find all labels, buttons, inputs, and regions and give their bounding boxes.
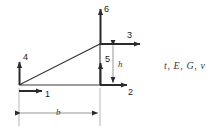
dof-label-4: 4 <box>23 53 28 62</box>
dof-label-6: 6 <box>104 5 109 14</box>
dimension-label-b: b <box>56 108 61 117</box>
material-properties-label: t, E, G, ν <box>164 61 206 71</box>
figure-canvas: 1 2 3 4 5 6 b h t, E, G, ν <box>0 0 220 133</box>
dof-label-5: 5 <box>105 55 110 64</box>
dof-label-1: 1 <box>45 90 50 99</box>
triangle-element-outline <box>19 44 100 85</box>
dof-label-2: 2 <box>128 88 133 97</box>
dimension-label-h: h <box>118 60 123 69</box>
dof-label-3: 3 <box>127 31 132 40</box>
